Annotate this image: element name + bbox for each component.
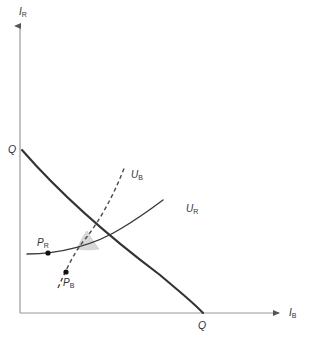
curve-qq-frontier — [22, 150, 203, 313]
endpoint-label-q-vertical-text: Q — [8, 143, 16, 155]
point-p-r — [45, 250, 50, 255]
indifference-curve-diagram: IR IB UB UR PR PB Q Q — [0, 0, 310, 345]
x-axis-label-subscript: B — [292, 312, 297, 319]
endpoint-label-q-horizontal-text: Q — [198, 319, 206, 331]
curve-label-u-b: UB — [131, 165, 143, 181]
point-label-p-b-subscript: B — [70, 282, 75, 289]
y-axis-label-subscript: R — [22, 11, 27, 18]
curve-label-u-r: UR — [186, 199, 198, 215]
point-label-p-b-text: P — [63, 277, 70, 288]
curve-label-u-b-subscript: B — [138, 174, 143, 181]
y-axis-label: IR — [19, 2, 27, 18]
x-axis-label: IB — [289, 303, 296, 319]
plot-canvas — [0, 0, 310, 345]
curve-u-b — [58, 166, 125, 288]
point-label-p-r: PR — [37, 233, 49, 249]
endpoint-label-q-vertical: Q — [8, 140, 16, 156]
endpoint-label-q-horizontal: Q — [198, 316, 206, 332]
point-label-p-r-text: P — [37, 237, 44, 248]
curve-label-u-r-subscript: R — [193, 208, 198, 215]
point-label-p-b: PB — [63, 273, 74, 289]
point-label-p-r-subscript: R — [44, 242, 49, 249]
